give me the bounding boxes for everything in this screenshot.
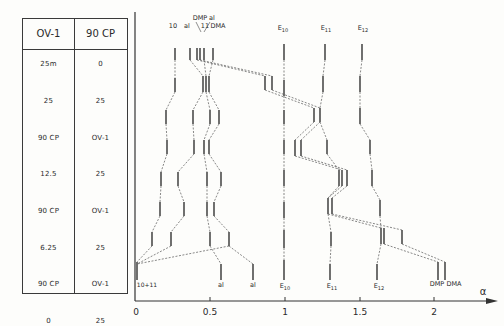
label-10-11: 10+11 bbox=[137, 281, 157, 288]
label-al: al bbox=[218, 281, 224, 289]
tick-label: 0.5 bbox=[203, 307, 217, 317]
label-e12: E12 bbox=[374, 282, 384, 291]
tick-label: 1.5 bbox=[353, 307, 367, 317]
label-dma: DMA bbox=[210, 22, 226, 30]
label-10: 10 bbox=[169, 22, 177, 30]
axis-arrow-icon bbox=[486, 298, 498, 304]
tick-label: 2 bbox=[431, 307, 437, 317]
label-e10: E10 bbox=[278, 24, 288, 33]
label-e12: E12 bbox=[358, 24, 368, 33]
correlation-lines bbox=[137, 60, 445, 264]
label-e10: E10 bbox=[280, 282, 290, 291]
tick-label: 0 bbox=[133, 307, 139, 317]
label-al: al bbox=[184, 22, 190, 30]
tick-label: 1 bbox=[282, 307, 288, 317]
band-segments bbox=[137, 44, 445, 280]
correlation-diagram: 0 0.5 1 1.5 2 α 10 al DMP al 11 DMA E10 … bbox=[0, 0, 504, 326]
label-dmp: DMP bbox=[193, 14, 208, 22]
label-e11: E11 bbox=[327, 282, 337, 291]
axis-label-alpha: α bbox=[480, 286, 487, 297]
bottom-labels: 10+11 al al E10 E11 E12 DMP DMA bbox=[137, 280, 462, 291]
label-dma: DMA bbox=[446, 280, 462, 288]
label-e11: E11 bbox=[321, 24, 331, 33]
label-dmp: DMP bbox=[430, 280, 445, 288]
label-al: al bbox=[250, 281, 256, 289]
label-al: al bbox=[209, 14, 215, 22]
top-labels: 10 al DMP al 11 DMA E10 E11 E12 bbox=[169, 14, 368, 33]
